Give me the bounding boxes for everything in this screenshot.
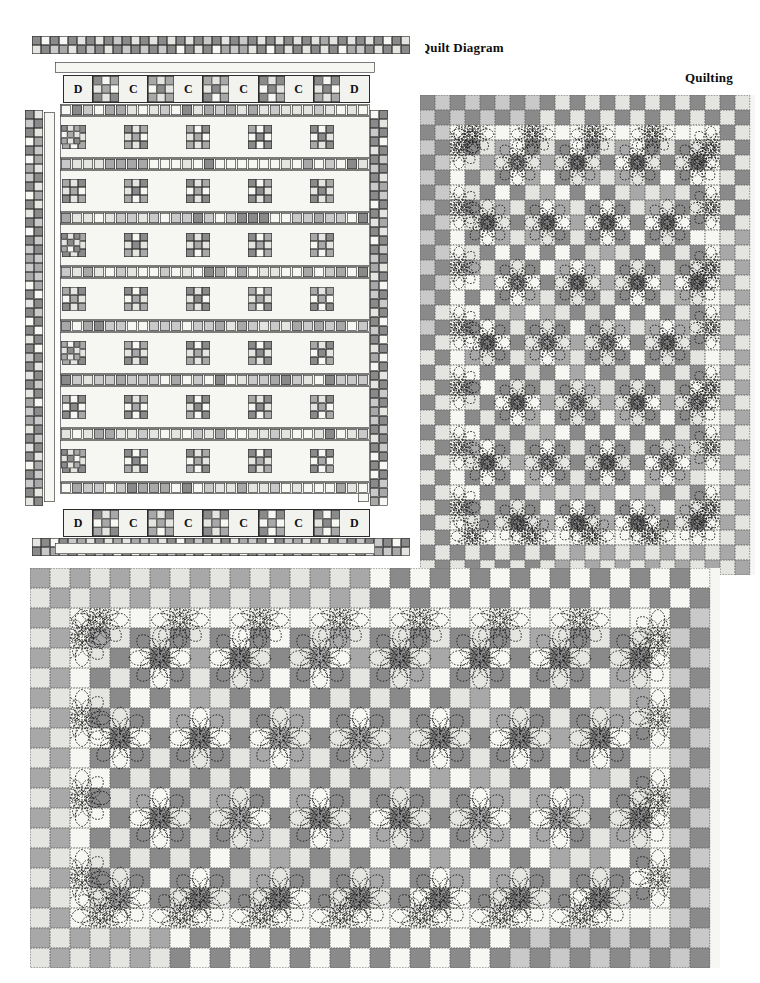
dc-label-c: C [174,510,203,536]
dc-row-bottom: DCCCCD [63,509,370,537]
nine-patch-block [93,76,119,102]
quilt-diagram-canvas [25,30,425,570]
dc-label-d: D [64,510,93,536]
quilting-panel-right [420,95,755,575]
quilting-panel-bottom [30,568,720,968]
quilt-diagram-panel [25,30,425,570]
dc-label-c: C [119,76,148,102]
dc-label-d: D [340,76,369,102]
quilting-right-canvas [420,95,755,575]
dc-label-c: C [119,510,148,536]
dc-label-d: D [64,76,93,102]
nine-patch-block [203,510,229,536]
dc-label-c: C [174,76,203,102]
dc-label-c: C [229,510,258,536]
nine-patch-block [93,510,119,536]
dc-row-top: DCCCCD [63,75,370,103]
quilting-title: Quilting [685,70,733,86]
dc-label-c: C [229,76,258,102]
nine-patch-block [203,76,229,102]
quilting-bottom-canvas [30,568,720,968]
dc-label-d: D [340,510,369,536]
nine-patch-block [259,76,285,102]
quilt-diagram-title: Quilt Diagram [420,40,504,56]
dc-label-c: C [285,510,314,536]
nine-patch-block [314,76,340,102]
nine-patch-block [314,510,340,536]
nine-patch-block [148,76,174,102]
nine-patch-block [259,510,285,536]
nine-patch-block [148,510,174,536]
dc-label-c: C [285,76,314,102]
